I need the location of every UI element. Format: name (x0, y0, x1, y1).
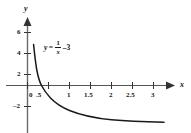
equation-fraction: 1 x (55, 40, 61, 55)
y-tick-label-6: 6 (17, 29, 21, 36)
fraction-numerator: 1 (56, 40, 61, 47)
x-tick-label-1-5: 1.5 (84, 92, 93, 99)
equation-lhs: y (44, 44, 47, 52)
x-tick-label-0-5: .5 (36, 92, 41, 99)
plot-canvas (0, 0, 191, 133)
equation-trailing-term: –3 (63, 44, 71, 52)
x-axis-label: x (180, 81, 184, 89)
y-axis-label: y (24, 5, 28, 13)
x-tick-label-3: 3 (151, 92, 155, 99)
graph-figure: y x 6 4 2 –2 0 .5 1 1.5 2 2.5 3 y = 1 x … (0, 0, 191, 133)
x-tick-label-0: 0 (29, 92, 33, 99)
x-tick-label-2-5: 2.5 (126, 92, 135, 99)
equation-equals-sign: = (49, 44, 53, 52)
fraction-denominator: x (56, 49, 61, 56)
y-tick-label-minus-2: –2 (13, 103, 20, 110)
y-axis-arrowhead (24, 17, 32, 26)
hyperbola-curve (34, 45, 164, 123)
equation-annotation: y = 1 x –3 (44, 40, 70, 55)
x-tick-label-2: 2 (109, 92, 113, 99)
x-axis-arrowhead (166, 82, 175, 90)
y-tick-label-4: 4 (17, 50, 21, 57)
y-tick-label-2: 2 (17, 71, 21, 78)
x-tick-label-1: 1 (67, 92, 71, 99)
